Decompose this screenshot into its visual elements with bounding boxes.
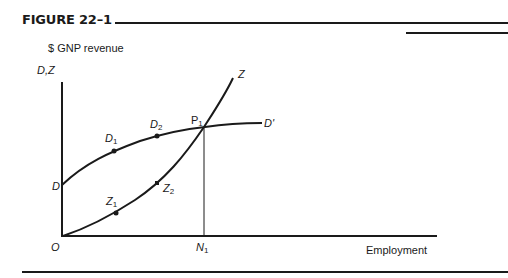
aggregate-demand-curve [62, 123, 262, 185]
aggregate-supply-curve [63, 78, 233, 236]
point-z1 [114, 211, 119, 216]
d1-label: D1 [105, 132, 117, 146]
y-axis-caption: $ GNP revenue [48, 42, 124, 54]
d-prime-label: D' [264, 117, 274, 129]
point-z2 [155, 181, 159, 185]
n1-label: N1 [196, 241, 208, 255]
d2-label: D2 [150, 118, 162, 132]
z1-label: Z1 [106, 195, 117, 209]
z-end-label: Z [238, 68, 245, 80]
point-d1 [112, 149, 117, 154]
z2-label: Z2 [163, 182, 174, 196]
origin-label: O [51, 241, 60, 253]
x-axis-label: Employment [366, 244, 427, 256]
d-start-label: D [52, 180, 60, 192]
point-d2 [155, 134, 160, 139]
y-axis-label: D,Z [37, 64, 55, 76]
p1-label: P1 [191, 114, 203, 128]
